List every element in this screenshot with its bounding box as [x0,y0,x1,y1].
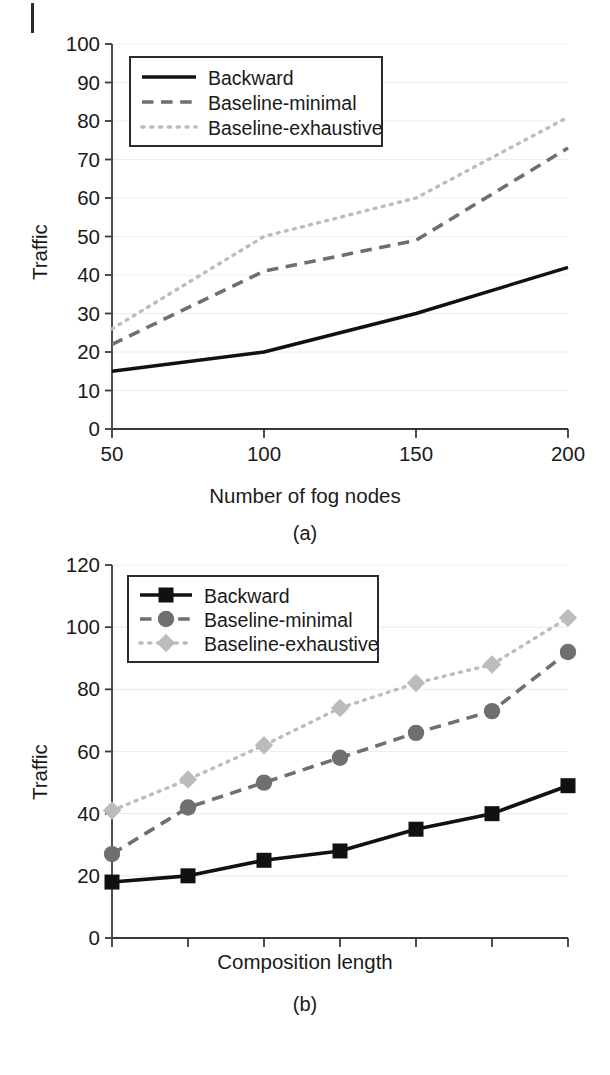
legend-label-baseline-exhaustive: Baseline-exhaustive [204,633,379,655]
y-tick-label-100: 100 [66,615,100,638]
y-tick-label-20: 20 [77,864,100,887]
y-tick-label-30: 30 [77,302,100,325]
legend-label-baseline-minimal: Baseline-minimal [208,92,356,114]
y-tick-label-40: 40 [77,263,100,286]
figure-a: 010203040506070809010050100150200Backwar… [0,22,610,532]
y-tick-label-80: 80 [77,677,100,700]
y-tick-label-70: 70 [77,148,100,171]
legend-marker-circle-baseline-minimal [158,611,174,627]
chart-a-plot: 010203040506070809010050100150200Backwar… [0,22,610,477]
y-tick-label-60: 60 [77,740,100,763]
marker-circle-baseline-minimal-10 [560,644,576,660]
marker-circle-baseline-minimal-5 [180,799,196,815]
legend-label-backward: Backward [204,585,290,607]
chart-b-y-axis-title: Traffic [28,744,52,800]
marker-circle-baseline-minimal-7 [332,750,348,766]
chart-a-caption: (a) [0,522,610,545]
x-tick-label-200: 200 [551,442,585,465]
marker-diamond-baseline-exhaustive-9 [483,655,501,673]
y-tick-label-50: 50 [77,225,100,248]
series-line-backward [112,786,568,882]
y-tick-label-0: 0 [89,926,100,949]
chart-a-x-axis-title: Number of fog nodes [0,484,610,508]
marker-square-backward-7 [333,843,348,858]
legend-label-baseline-exhaustive: Baseline-exhaustive [208,117,383,139]
marker-diamond-baseline-exhaustive-7 [331,699,349,717]
marker-circle-baseline-minimal-4 [104,846,120,862]
marker-circle-baseline-minimal-9 [484,703,500,719]
series-line-baseline-minimal [112,148,568,344]
marker-square-backward-8 [409,822,424,837]
legend-label-backward: Backward [208,67,294,89]
y-tick-label-100: 100 [66,32,100,55]
marker-square-backward-4 [105,875,120,890]
x-tick-label-150: 150 [399,442,433,465]
y-tick-label-120: 120 [66,553,100,576]
y-tick-label-40: 40 [77,802,100,825]
series-line-backward [112,267,568,371]
x-tick-label-50: 50 [101,442,124,465]
series-line-baseline-exhaustive [112,117,568,329]
chart-b-x-axis-title: Composition length [0,950,610,974]
marker-square-backward-9 [485,806,500,821]
figure-page: 010203040506070809010050100150200Backwar… [0,0,610,1075]
y-tick-label-60: 60 [77,186,100,209]
y-tick-label-80: 80 [77,109,100,132]
y-tick-label-10: 10 [77,379,100,402]
legend-label-baseline-minimal: Baseline-minimal [204,609,352,631]
y-tick-label-0: 0 [89,417,100,440]
chart-a-y-axis-title: Traffic [28,224,52,280]
chart-b-plot: 02040608010012045678910BackwardBaseline-… [0,550,610,950]
marker-diamond-baseline-exhaustive-10 [559,609,577,627]
legend-marker-square-backward [159,588,174,603]
figure-b: 02040608010012045678910BackwardBaseline-… [0,550,610,1075]
marker-square-backward-10 [561,778,576,793]
marker-square-backward-5 [181,868,196,883]
y-tick-label-20: 20 [77,340,100,363]
marker-circle-baseline-minimal-8 [408,725,424,741]
y-tick-label-90: 90 [77,71,100,94]
marker-diamond-baseline-exhaustive-5 [179,770,197,788]
marker-square-backward-6 [257,853,272,868]
x-tick-label-100: 100 [247,442,281,465]
marker-diamond-baseline-exhaustive-4 [103,801,121,819]
marker-circle-baseline-minimal-6 [256,774,272,790]
chart-b-caption: (b) [0,993,610,1016]
